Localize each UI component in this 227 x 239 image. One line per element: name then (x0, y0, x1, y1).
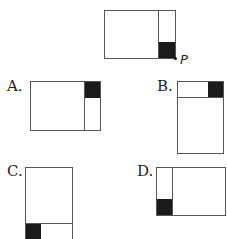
black-square (208, 82, 223, 97)
black-square (26, 224, 41, 239)
option-d-label: D. (137, 164, 153, 179)
horizontal-divider (178, 97, 223, 98)
option-d-figure[interactable] (156, 167, 226, 216)
original-figure (104, 10, 176, 59)
black-square (159, 42, 175, 58)
option-c-figure[interactable] (25, 167, 73, 239)
vertical-divider (172, 168, 173, 215)
option-c-label: C. (7, 164, 23, 179)
point-p-label: P (180, 53, 188, 66)
point-p-marker (174, 57, 177, 60)
option-a-figure[interactable] (30, 81, 101, 131)
black-square (85, 82, 100, 98)
black-square (157, 199, 172, 215)
option-b-figure[interactable] (177, 81, 224, 154)
option-b-label: B. (157, 79, 173, 94)
option-a-label: A. (7, 79, 23, 94)
